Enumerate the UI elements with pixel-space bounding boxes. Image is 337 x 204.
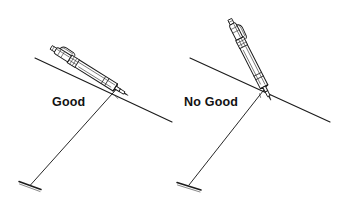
label-no-good: No Good bbox=[184, 96, 238, 109]
diagram-canvas: Good No Good bbox=[0, 0, 337, 204]
label-good: Good bbox=[52, 96, 85, 109]
ruling-line-no-good bbox=[190, 58, 330, 122]
pencil-good bbox=[47, 41, 132, 102]
foot-mark-no-good bbox=[177, 183, 201, 193]
panel-good bbox=[19, 41, 172, 192]
diagram-artwork bbox=[0, 0, 337, 204]
pencil-no-good bbox=[223, 16, 278, 104]
foot-mark-good bbox=[19, 182, 41, 192]
ruling-line-good bbox=[35, 58, 172, 122]
